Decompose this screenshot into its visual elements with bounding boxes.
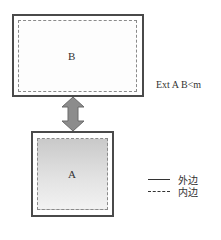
annotation-text: Ext A B<m [156, 79, 201, 90]
box-b-label: B [68, 50, 75, 62]
legend-inner-label: 内边 [178, 184, 198, 199]
double-arrow-icon [60, 96, 86, 132]
box-b-inner [18, 20, 137, 92]
legend-dashed-line [148, 191, 170, 192]
legend: 外边 内边 [146, 172, 216, 200]
box-a-label: A [68, 168, 76, 180]
legend-solid-line [148, 179, 170, 180]
